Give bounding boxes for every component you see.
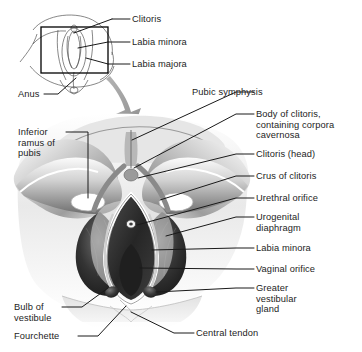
leader-urethral-orifice: [137, 198, 254, 225]
label-labia-minora-detail: Labia minora: [256, 243, 311, 254]
label-crus-of-clitoris: Crus of clitoris: [256, 171, 316, 182]
label-central-tendon: Central tendon: [196, 328, 258, 339]
leader-urogenital-diaphragm: [166, 217, 254, 236]
label-clitoris-head: Clitoris (head): [256, 149, 315, 160]
label-body-of-clitoris: Body of clitoris, containing corpora cav…: [256, 109, 334, 141]
label-clitoris: Clitoris: [132, 14, 161, 25]
leader-bulb-of-vestibule: [62, 288, 108, 307]
inset-line-drawing: [20, 15, 114, 94]
leader-anus: [44, 78, 76, 94]
leader-fourchette: [78, 306, 126, 336]
leader-crus-of-clitoris: [160, 176, 254, 200]
label-anus: Anus: [18, 89, 40, 100]
inset-frame-box: [41, 27, 108, 73]
label-urogenital-diaphragm: Urogenital diaphragm: [256, 212, 301, 233]
label-bulb-of-vestibule: Bulb of vestibule: [14, 302, 52, 323]
label-greater-vestibular-gland: Greater vestibular gland: [256, 283, 297, 315]
label-fourchette: Fourchette: [14, 331, 59, 342]
leader-central-tendon: [131, 312, 194, 333]
leader-clitoris-head: [138, 154, 254, 178]
leader-vaginal-orifice: [140, 268, 254, 269]
leader-labia-majora-tail: [86, 58, 108, 64]
figure-canvas: Clitoris Labia minora Labia majora Anus …: [0, 0, 362, 352]
label-labia-minora: Labia minora: [132, 37, 187, 48]
leader-pubic-symphysis: [132, 92, 254, 140]
magnification-arrow-shape: [106, 76, 141, 130]
label-pubic-symphysis: Pubic symphysis: [192, 87, 263, 98]
leader-clitoris-tail: [74, 19, 112, 33]
leader-labia-minora-tail: [78, 42, 108, 48]
label-labia-majora: Labia majora: [132, 59, 187, 70]
label-vaginal-orifice: Vaginal orifice: [256, 264, 315, 275]
label-urethral-orifice: Urethral orifice: [256, 193, 318, 204]
leader-labia-minora-detail: [152, 248, 254, 250]
leader-greater-vestibular-gland: [156, 288, 254, 292]
leader-body-of-clitoris: [134, 114, 254, 168]
label-inferior-ramus-of-pubis: Inferior ramus of pubis: [18, 127, 55, 159]
leader-inferior-ramus-of-pubis: [66, 132, 88, 198]
